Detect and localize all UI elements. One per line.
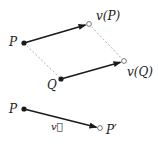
label-pprime: P′ <box>105 123 117 137</box>
point-vq <box>122 59 127 64</box>
point-pprime <box>98 126 103 131</box>
label-vp: v(P) <box>96 9 121 23</box>
point-p <box>21 40 26 45</box>
arrow-p-to-vp <box>24 25 86 43</box>
label-vector-v: v⃗ <box>51 121 63 132</box>
label-vq: v(Q) <box>127 65 153 79</box>
label-p-bottom: P <box>8 102 18 116</box>
translation-diagram: P Q v(P) v(Q) P P′ v⃗ <box>0 0 158 150</box>
arrow-q-to-vq <box>61 62 121 79</box>
dashed-line-vp-vq <box>89 24 124 61</box>
label-p: P <box>8 35 18 49</box>
dashed-line-p-q <box>24 43 61 79</box>
label-q: Q <box>47 78 57 92</box>
point-p-bottom <box>21 106 26 111</box>
point-vp <box>87 22 92 27</box>
point-q <box>58 76 63 81</box>
